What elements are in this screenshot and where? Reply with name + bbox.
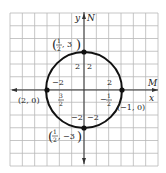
- x-axis-label-m: M: [147, 78, 158, 88]
- annotation-top-left-2: 2: [75, 62, 80, 71]
- svg-text:, −3: , −3: [58, 132, 75, 141]
- svg-text:1: 1: [57, 37, 61, 44]
- point-bottom-label: ( 1 2 , −3 ): [48, 128, 82, 144]
- svg-text:): ): [76, 37, 81, 52]
- x-axis-label: x: [149, 93, 154, 103]
- y-axis-down-arrow-icon: [82, 158, 86, 164]
- svg-text:2: 2: [107, 100, 111, 107]
- point-top: [81, 49, 86, 54]
- point-bottom: [81, 125, 86, 130]
- point-right-label: (−1, 0): [117, 103, 145, 112]
- annotation-top-right-2: 2: [87, 62, 92, 71]
- annotation-bottom-left-minus2: −2: [71, 113, 83, 122]
- svg-text:, 3: , 3: [62, 40, 72, 49]
- point-top-label: ( 1 2 , 3 ): [52, 37, 81, 52]
- svg-text:2: 2: [53, 136, 57, 143]
- point-left: [44, 87, 49, 92]
- annotation-bottom-right-minus2: −2: [87, 113, 99, 122]
- svg-text:3: 3: [59, 92, 63, 99]
- annotation-left-minus2: −2: [52, 78, 64, 87]
- x-axis-left-arrow-icon: [11, 88, 17, 92]
- y-axis-label: y: [74, 13, 81, 23]
- svg-text:): ): [77, 129, 82, 144]
- y-axis-label-n: N: [86, 13, 96, 23]
- annotation-right-fraction: − 1 2: [100, 92, 112, 107]
- annotation-right-2: 2: [107, 78, 112, 87]
- point-right: [119, 87, 124, 92]
- svg-text:1: 1: [53, 128, 57, 135]
- point-left-label: (2, 0): [18, 96, 40, 105]
- annotation-left-fraction: 3 2: [58, 92, 64, 107]
- x-axis-right-arrow-icon: [152, 88, 158, 92]
- svg-text:2: 2: [57, 45, 61, 52]
- svg-text:−: −: [100, 95, 107, 104]
- y-axis: [82, 12, 86, 164]
- circle-diagram: y N M x ( 1 2 , 3 ) ( 1 2 , −3 ) (2, 0) …: [0, 0, 166, 173]
- svg-text:2: 2: [59, 100, 63, 107]
- svg-text:1: 1: [107, 92, 111, 99]
- y-axis-up-arrow-icon: [82, 13, 86, 19]
